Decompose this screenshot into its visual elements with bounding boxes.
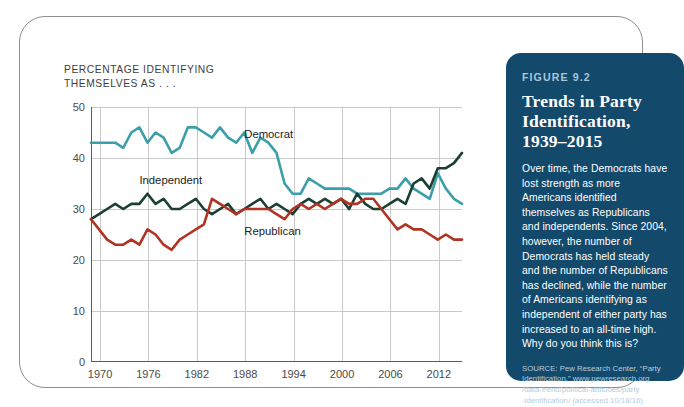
x-axis-tick-label: 1988: [233, 368, 257, 380]
y-axis-tick-label: 30: [73, 203, 85, 215]
y-axis-tick-label: 40: [73, 152, 85, 164]
figure-heading: Trends in Party Identification, 1939–201…: [522, 91, 668, 151]
y-axis-tick-label: 20: [73, 254, 85, 266]
series-line-independent: [91, 153, 462, 219]
series-label-independent: Independent: [139, 174, 202, 186]
x-axis-tick-label: 1976: [136, 368, 160, 380]
figure-info-panel: FIGURE 9.2 Trends in Party Identificatio…: [506, 53, 684, 381]
chart-panel: PERCENTAGE IDENTIFYING THEMSELVES AS . .…: [39, 33, 499, 405]
y-axis-tick-label: 50: [73, 101, 85, 113]
x-axis-tick-label: 1994: [281, 368, 305, 380]
figure-card: PERCENTAGE IDENTIFYING THEMSELVES AS . .…: [19, 16, 643, 388]
plot-wrap: 0102030405019701976198219881994200020062…: [91, 107, 462, 362]
x-axis-tick-label: 2000: [330, 368, 354, 380]
series-label-democrat: Democrat: [244, 128, 293, 140]
x-axis-tick-label: 1982: [185, 368, 209, 380]
y-axis-tick-label: 0: [79, 356, 85, 368]
x-axis-tick-label: 2006: [378, 368, 402, 380]
series-label-republican: Republican: [244, 225, 301, 237]
figure-body-text: Over time, the Democrats have lost stren…: [522, 162, 668, 352]
x-axis-tick-label: 2012: [427, 368, 451, 380]
x-axis-tick-label: 1970: [88, 368, 112, 380]
y-axis-tick-label: 10: [73, 305, 85, 317]
chart-subtitle: PERCENTAGE IDENTIFYING THEMSELVES AS . .…: [64, 63, 214, 91]
figure-source-note: SOURCE: Pew Research Center, “Party Iden…: [522, 364, 668, 406]
figure-number: FIGURE 9.2: [522, 71, 668, 83]
